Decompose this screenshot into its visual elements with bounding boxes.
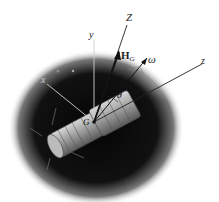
diagram-root: Z y x z HG ω θ G	[0, 0, 219, 202]
label-omega: ω	[148, 54, 156, 65]
label-theta: θ	[117, 90, 122, 100]
label-Z: Z	[126, 12, 132, 23]
label-x: x	[41, 75, 45, 85]
label-z: z	[201, 56, 205, 66]
star	[56, 69, 59, 72]
label-H-G: HG	[121, 50, 135, 63]
label-G: G	[83, 118, 90, 127]
center-G	[92, 120, 96, 124]
label-y: y	[89, 30, 93, 40]
diagram-canvas	[0, 0, 219, 202]
star	[72, 70, 74, 72]
